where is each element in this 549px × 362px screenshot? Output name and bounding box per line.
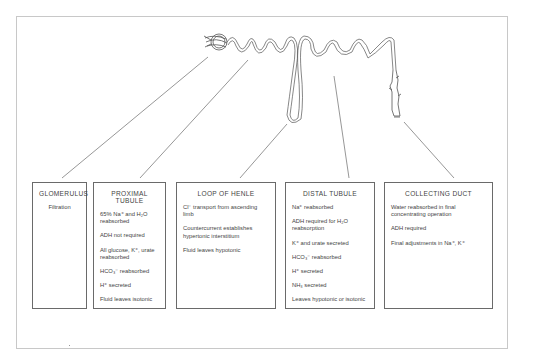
box-item: All glucose, K⁺, urate reabsorbed (100, 247, 159, 261)
box-item: H⁺ secreted (292, 268, 368, 275)
box-item: Final adjustments in Na⁺, K⁺ (391, 240, 486, 247)
glomerulus-icon (204, 34, 227, 50)
box-item: K⁺ and urate secreted (292, 240, 368, 247)
leader-line-distal (334, 76, 349, 178)
leader-lines (62, 57, 454, 178)
box-glomerulus: GLOMERULUS Filtration (32, 182, 87, 309)
box-collecting-duct: COLLECTING DUCT Water reabsorbed in fina… (384, 182, 493, 309)
box-title: DISTAL TUBULE (292, 190, 368, 197)
tubule-icon (227, 36, 396, 123)
leader-line-glomerulus (62, 57, 208, 178)
stray-mark (69, 345, 70, 346)
collecting-duct-icon (389, 70, 401, 117)
box-item: Fluid leaves hypotonic (183, 247, 269, 254)
box-item: Cl⁻ transport from ascending limb (183, 204, 269, 218)
box-item: HCO₃⁻ reabsorbed (100, 268, 159, 275)
box-title: PROXIMAL TUBULE (100, 190, 159, 204)
box-item: Countercurrent establishes hypertonic in… (183, 225, 269, 239)
box-title: COLLECTING DUCT (391, 190, 486, 197)
leader-line-collecting (404, 122, 454, 178)
box-item: 65% Na⁺ and H₂O reabsorbed (100, 211, 159, 225)
box-loop-of-henle: LOOP OF HENLE Cl⁻ transport from ascendi… (176, 182, 276, 309)
box-distal-tubule: DISTAL TUBULE Na⁺ reabsorbed ADH require… (285, 182, 375, 309)
box-title: LOOP OF HENLE (183, 190, 269, 197)
box-item: Fluid leaves isotonic (100, 296, 159, 303)
box-item: HCO₃⁻ reabsorbed (292, 254, 368, 261)
leader-line-proximal (140, 60, 248, 178)
box-item: H⁺ secreted (100, 282, 159, 289)
box-item: Water reabsorbed in final concentrating … (391, 204, 486, 218)
box-item: ADH required for H₂O reabsorption (292, 218, 368, 232)
box-proximal-tubule: PROXIMAL TUBULE 65% Na⁺ and H₂O reabsorb… (93, 182, 166, 309)
box-item: ADH required (391, 225, 486, 232)
box-title: GLOMERULUS (39, 190, 80, 197)
box-item: Filtration (39, 204, 80, 211)
box-item: Na⁺ reabsorbed (292, 204, 368, 211)
box-item: ADH not required (100, 232, 159, 239)
box-item: NH₃ secreted (292, 282, 368, 289)
box-item: Leaves hypotonic or isotonic (292, 296, 368, 303)
leader-line-henle (240, 124, 287, 178)
